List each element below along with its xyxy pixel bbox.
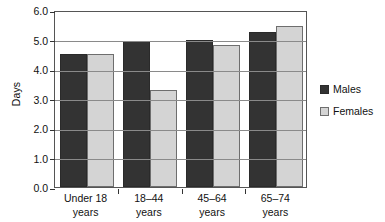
y-axis-tick-label: 2.0 [14,124,48,134]
y-axis-tick-label: 1.0 [14,154,48,164]
plot-area [54,11,307,188]
gridline [55,41,306,42]
y-axis-tick-label: 5.0 [14,36,48,46]
gridline [55,130,306,131]
x-axis-tick-labels: Under 18 years18–44 years45–64 years65–7… [54,191,307,222]
x-axis-tick-label: 18–44 years [117,191,180,219]
chart-legend: MalesFemales [320,82,385,126]
bar-males-3 [249,32,276,187]
y-axis-tick-mark [50,12,55,13]
bar-females-3 [276,26,303,187]
y-axis-tick-label: 6.0 [14,6,48,16]
y-axis-tick-mark [50,71,55,72]
gridline [55,71,306,72]
legend-item-males[interactable]: Males [320,82,385,97]
x-axis-tick-label: 45–64 years [181,191,244,219]
y-axis-tick-label: 4.0 [14,65,48,75]
x-axis-tick-label: 65–74 years [244,191,307,219]
legend-swatch-icon [320,107,329,116]
y-axis-tick-mark [50,159,55,160]
y-axis-tick-mark [50,130,55,131]
gridline [55,159,306,160]
bar-females-0 [87,54,114,187]
y-axis-tick-mark [50,41,55,42]
y-axis-tick-mark [50,100,55,101]
gridline [55,100,306,101]
bar-females-1 [150,90,177,187]
bar-chart: Days 0.01.02.03.04.05.06.0 Under 18 year… [0,0,385,222]
y-axis-tick-label: 3.0 [14,95,48,105]
legend-item-label: Males [333,84,361,95]
bar-males-0 [60,54,87,187]
bar-males-2 [186,40,213,188]
y-axis-tick-labels: 0.01.02.03.04.05.06.0 [14,0,48,222]
bar-females-2 [213,45,240,187]
x-axis-tick-label: Under 18 years [54,191,117,219]
bar-males-1 [123,41,150,187]
y-axis-tick-label: 0.0 [14,183,48,193]
legend-item-females[interactable]: Females [320,104,385,119]
y-axis-tick-mark [50,189,55,190]
legend-swatch-icon [320,85,329,94]
legend-item-label: Females [333,106,373,117]
